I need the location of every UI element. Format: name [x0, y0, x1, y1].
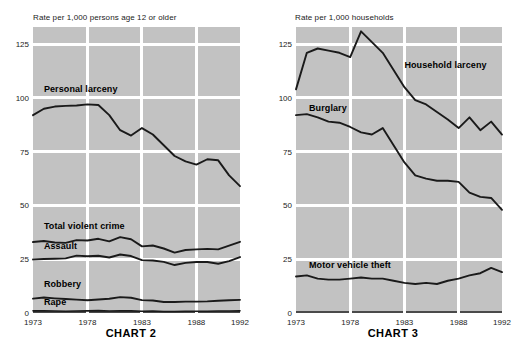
x-axis-tick-label: 1983	[396, 318, 414, 327]
series-label: Motor vehicle theft	[309, 260, 391, 270]
series-label: Burglary	[309, 103, 347, 113]
charts-page: Rate per 1,000 persons age 12 or older 0…	[0, 0, 525, 350]
chart-title-2: CHART 2	[0, 327, 262, 339]
y-axis-tick-label: 100	[279, 93, 292, 102]
series-line	[296, 268, 502, 284]
series-label: Rape	[44, 297, 66, 307]
series-label: Household larceny	[404, 60, 486, 70]
series-lines	[33, 27, 240, 313]
y-axis-tick-label: 125	[16, 40, 29, 49]
x-axis-tick-label: 1992	[493, 318, 511, 327]
plot-area-chart3: 025507510012519731978198319881992Househo…	[296, 27, 502, 313]
y-axis-tick-label: 75	[283, 147, 292, 156]
y-axis-tick-label: 0	[25, 309, 29, 318]
x-axis-tick-label: 1988	[450, 318, 468, 327]
y-axis-caption-chart3: Rate per 1,000 households	[295, 13, 394, 22]
series-line	[33, 255, 240, 266]
y-axis-caption-chart2: Rate per 1,000 persons age 12 or older	[33, 13, 176, 22]
x-axis-tick-label: 1978	[79, 318, 97, 327]
chart-panel-3: Rate per 1,000 households 02550751001251…	[262, 0, 524, 350]
series-label: Personal larceny	[44, 84, 118, 94]
series-line	[33, 311, 240, 312]
series-line	[33, 104, 240, 186]
series-label: Robbery	[44, 279, 81, 289]
plot-area-chart2: 025507510012519731978198319881992Persona…	[33, 27, 240, 313]
x-axis-tick-label: 1992	[231, 318, 249, 327]
x-axis-tick-label: 1973	[287, 318, 305, 327]
series-line	[296, 114, 502, 210]
x-axis-tick-label: 1973	[24, 318, 42, 327]
y-axis-tick-label: 0	[288, 309, 292, 318]
y-axis-tick-label: 125	[279, 40, 292, 49]
series-line	[296, 31, 502, 134]
x-axis-tick-label: 1988	[188, 318, 206, 327]
series-lines	[296, 27, 502, 313]
series-label: Total violent crime	[44, 221, 125, 231]
chart-panel-2: Rate per 1,000 persons age 12 or older 0…	[0, 0, 262, 350]
chart-title-3: CHART 3	[262, 327, 524, 339]
y-axis-tick-label: 50	[283, 201, 292, 210]
x-axis-tick-label: 1983	[133, 318, 151, 327]
y-axis-tick-label: 75	[20, 147, 29, 156]
y-axis-tick-label: 50	[20, 201, 29, 210]
series-label: Assault	[44, 241, 77, 251]
y-axis-tick-label: 25	[20, 255, 29, 264]
y-axis-tick-label: 25	[283, 255, 292, 264]
x-axis-tick-label: 1978	[341, 318, 359, 327]
y-axis-tick-label: 100	[16, 93, 29, 102]
